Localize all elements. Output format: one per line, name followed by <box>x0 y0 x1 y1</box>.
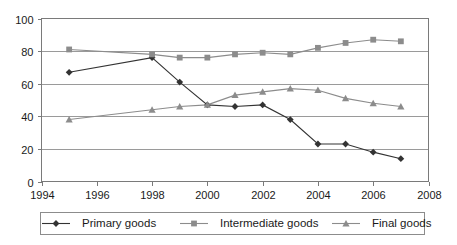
x-axis-tick-label: 2008 <box>417 189 441 201</box>
chart-canvas: 020406080100 199419961998200020022004200… <box>0 0 457 245</box>
data-point-marker-square <box>343 40 349 46</box>
data-point-marker-square <box>370 37 376 43</box>
data-series-layer <box>66 37 405 162</box>
x-axis-tick-label: 2002 <box>251 189 275 201</box>
legend-item-label: Primary goods <box>82 217 156 229</box>
y-axis-tick-label: 40 <box>21 111 33 123</box>
x-axis-tick-label: 2000 <box>195 189 219 201</box>
data-point-marker-square <box>204 55 210 61</box>
data-point-marker-diamond <box>232 103 239 110</box>
y-tickmarks-group <box>38 20 42 183</box>
data-point-marker-square <box>260 50 266 56</box>
data-point-marker-square <box>232 51 238 57</box>
gridlines-group <box>42 52 429 150</box>
data-point-marker-square <box>149 51 155 57</box>
data-point-marker-square <box>66 47 72 53</box>
x-axis-tick-label: 2004 <box>306 189 330 201</box>
plot-area-border <box>42 19 429 182</box>
x-axis-tick-labels: 19941996199820002002200420062008 <box>30 189 441 201</box>
legend-item-label: Intermediate goods <box>220 217 319 229</box>
x-tickmarks-group <box>43 182 430 186</box>
data-point-marker-square <box>315 45 321 51</box>
x-axis-tick-label: 1998 <box>140 189 164 201</box>
data-point-marker-square <box>398 38 404 44</box>
data-point-marker-diamond <box>66 69 73 76</box>
data-point-marker-diamond <box>259 101 266 108</box>
y-axis-tick-label: 20 <box>21 144 33 156</box>
data-point-marker-square <box>287 51 293 57</box>
chart-legend: Primary goodsIntermediate goodsFinal goo… <box>41 213 432 235</box>
y-axis-tick-label: 80 <box>21 46 33 58</box>
legend-item-label: Final goods <box>372 217 432 229</box>
x-axis-tick-label: 2006 <box>361 189 385 201</box>
data-point-marker-square <box>191 221 197 227</box>
data-point-marker-square <box>177 55 183 61</box>
y-axis-tick-label: 0 <box>27 177 33 189</box>
x-axis-tick-label: 1994 <box>30 189 54 201</box>
series-intermediate-goods <box>66 37 404 61</box>
data-point-marker-diamond <box>342 141 349 148</box>
x-axis-tick-label: 1996 <box>85 189 109 201</box>
y-axis-tick-label: 100 <box>15 14 33 26</box>
line-chart: 020406080100 199419961998200020022004200… <box>0 0 457 245</box>
y-axis-tick-labels: 020406080100 <box>15 14 33 189</box>
data-point-marker-diamond <box>397 155 404 162</box>
y-axis-tick-label: 60 <box>21 79 33 91</box>
series-primary-goods <box>66 54 405 162</box>
